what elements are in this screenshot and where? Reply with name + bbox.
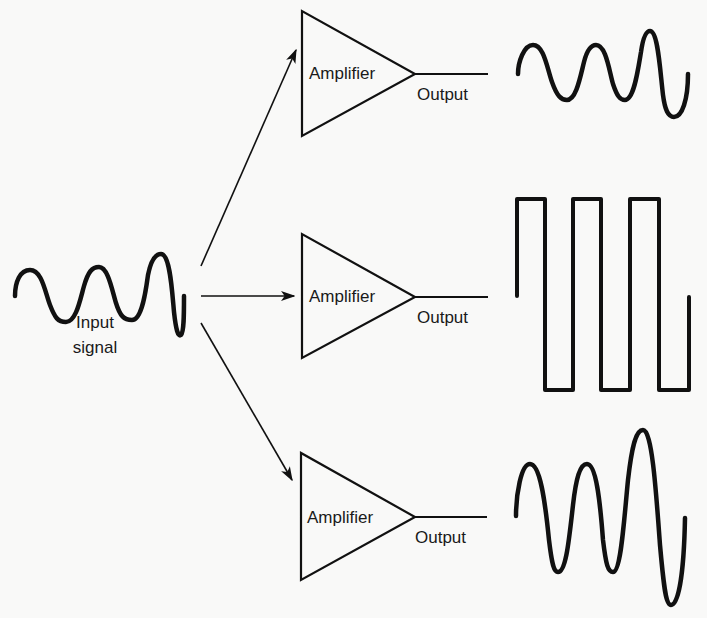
amplifier-label: Amplifier bbox=[309, 64, 375, 83]
output-waveform-1 bbox=[518, 31, 688, 117]
amplifier-label: Amplifier bbox=[309, 287, 375, 306]
arrow-to-amplifier-3 bbox=[201, 323, 292, 480]
arrow-to-amplifier-1 bbox=[201, 50, 296, 266]
amplifier-2: Amplifier Output bbox=[302, 234, 488, 358]
input-label-line2: signal bbox=[73, 338, 117, 357]
amplifier-3: Amplifier Output bbox=[301, 453, 487, 580]
output-label: Output bbox=[417, 85, 468, 104]
amplifier-diagram: Input signal Amplifier Output Amplifier … bbox=[0, 0, 707, 618]
amplifier-label: Amplifier bbox=[307, 508, 373, 527]
output-waveform-2 bbox=[517, 199, 689, 390]
input-label-line1: Input bbox=[76, 313, 114, 332]
amplifier-1: Amplifier Output bbox=[302, 11, 488, 136]
output-waveform-3 bbox=[516, 430, 685, 605]
output-label: Output bbox=[415, 528, 466, 547]
arrows bbox=[201, 50, 296, 480]
output-label: Output bbox=[417, 308, 468, 327]
